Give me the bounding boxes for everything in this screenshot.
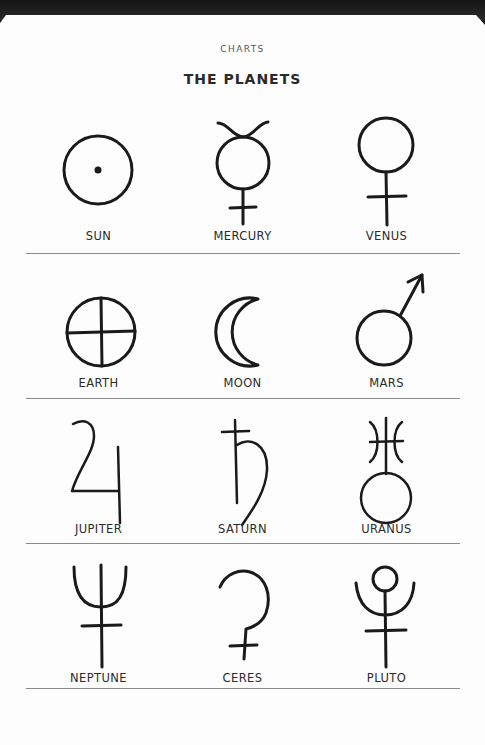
planet-cell-mercury: MERCURY	[170, 110, 315, 250]
uranus-symbol-icon	[314, 410, 459, 530]
planet-label: MOON	[170, 376, 315, 390]
planet-cell-venus: VENUS	[314, 110, 459, 250]
row-divider	[26, 688, 460, 689]
neptune-symbol-icon	[26, 555, 171, 675]
mars-symbol-icon	[314, 265, 459, 385]
moon-symbol-icon	[170, 265, 315, 385]
row-divider	[26, 543, 460, 544]
planet-cell-moon: MOON	[170, 265, 315, 405]
planet-label: JUPITER	[26, 522, 171, 536]
planet-cell-saturn: SATURN	[170, 410, 315, 550]
planet-label: CERES	[170, 671, 315, 685]
earth-symbol-icon	[26, 265, 171, 385]
ceres-symbol-icon	[170, 555, 315, 675]
planet-label: MARS	[314, 376, 459, 390]
sun-symbol-icon	[26, 110, 171, 230]
section-label: CHARTS	[0, 44, 485, 54]
page-title: THE PLANETS	[0, 71, 485, 87]
planet-cell-uranus: URANUS	[314, 410, 459, 550]
planet-label: SUN	[26, 229, 171, 243]
planet-cell-neptune: NEPTUNE	[26, 555, 171, 695]
planet-cell-ceres: CERES	[170, 555, 315, 695]
pluto-symbol-icon	[314, 555, 459, 675]
venus-symbol-icon	[314, 110, 459, 230]
planet-label: SATURN	[170, 522, 315, 536]
planet-label: VENUS	[314, 229, 459, 243]
planet-cell-earth: EARTH	[26, 265, 171, 405]
saturn-symbol-icon	[170, 410, 315, 530]
planet-label: URANUS	[314, 522, 459, 536]
planet-label: PLUTO	[314, 671, 459, 685]
row-divider	[26, 398, 460, 399]
mercury-symbol-icon	[170, 110, 315, 230]
planet-label: NEPTUNE	[26, 671, 171, 685]
planet-cell-jupiter: JUPITER	[26, 410, 171, 550]
planet-cell-mars: MARS	[314, 265, 459, 405]
jupiter-symbol-icon	[26, 410, 171, 530]
planet-cell-sun: SUN	[26, 110, 171, 250]
row-divider	[26, 253, 460, 254]
planet-label: EARTH	[26, 376, 171, 390]
chart-page: CHARTS THE PLANETS SUN MERCURY	[0, 15, 485, 745]
planet-cell-pluto: PLUTO	[314, 555, 459, 695]
planet-label: MERCURY	[170, 229, 315, 243]
